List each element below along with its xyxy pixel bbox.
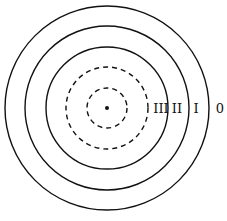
center-dot	[105, 106, 109, 110]
label-zone-0: 0	[216, 101, 224, 116]
label-zone-3: III	[153, 101, 168, 116]
label-zone-1: I	[193, 101, 198, 116]
label-zone-2: II	[172, 101, 182, 116]
concentric-zone-diagram: III II I 0	[0, 0, 227, 221]
